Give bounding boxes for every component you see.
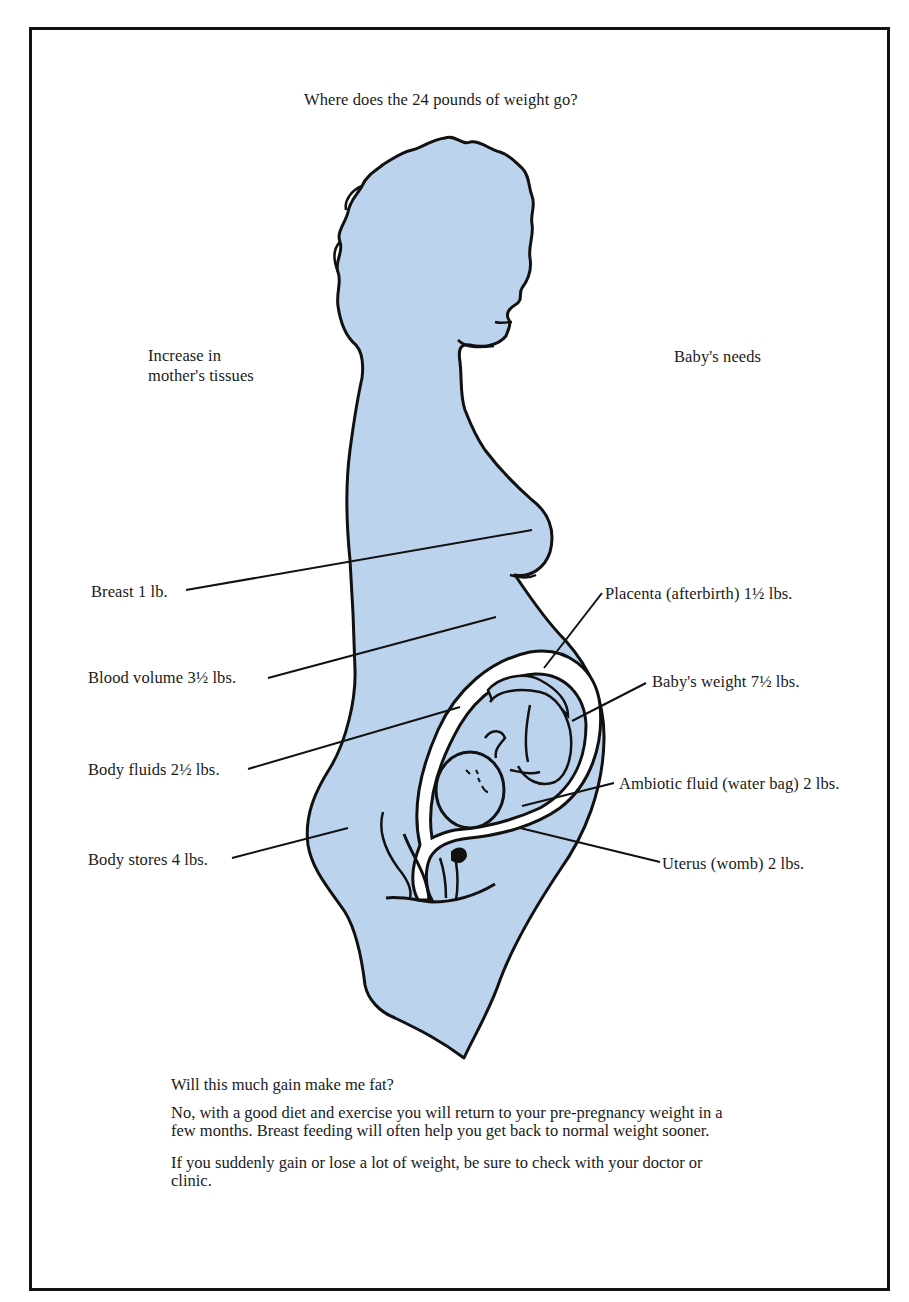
face-lips [495, 322, 512, 323]
footer-answer: No, with a good diet and exercise you wi… [171, 1104, 751, 1140]
footer-advice: If you suddenly gain or lose a lot of we… [171, 1154, 746, 1190]
label-placenta: Placenta (afterbirth) 1½ lbs. [605, 584, 793, 604]
footer-question: Will this much gain make me fat? [171, 1076, 771, 1094]
label-breast: Breast 1 lb. [91, 582, 168, 602]
baby-head [436, 752, 504, 828]
label-body-stores: Body stores 4 lbs. [88, 850, 208, 870]
label-body-fluids: Body fluids 2½ lbs. [88, 760, 220, 780]
footer-text-block: Will this much gain make me fat? No, wit… [171, 1076, 771, 1200]
label-uterus: Uterus (womb) 2 lbs. [662, 854, 804, 874]
label-amniotic-fluid: Ambiotic fluid (water bag) 2 lbs. [619, 774, 840, 794]
label-babys-weight: Baby's weight 7½ lbs. [652, 672, 800, 692]
label-blood-volume: Blood volume 3½ lbs. [88, 668, 236, 688]
bladder [452, 849, 466, 863]
silhouette-body [307, 137, 604, 1058]
